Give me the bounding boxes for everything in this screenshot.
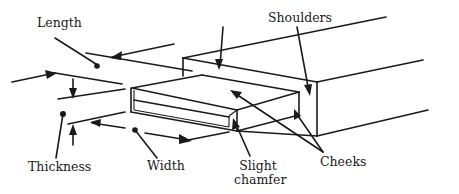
label-slight-chamfer-line2: chamfer [234,173,282,187]
arrowhead-icon [232,118,240,130]
label-slight-chamfer-line1: Slight [234,159,282,173]
label-slight-chamfer: Slight chamfer [234,159,282,187]
width-dimension [90,119,229,158]
label-shoulders: Shoulders [268,11,332,25]
tenon [131,75,317,136]
chamfer-leader [232,118,250,156]
label-width: Width [147,159,185,173]
arrowhead-icon [69,124,77,135]
thickness-dimension [56,79,125,158]
label-thickness: Thickness [28,160,91,174]
leader-dot [94,63,100,69]
length-dimension [12,38,192,84]
arrowhead-icon [45,70,57,79]
label-length: Length [37,16,82,30]
label-cheeks: Cheeks [320,155,366,169]
arrowhead-icon [110,51,122,60]
arrowhead-icon [304,84,312,96]
